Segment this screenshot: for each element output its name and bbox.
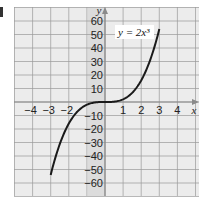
x-tick-label: −4 [24, 104, 37, 116]
y-tick-label: −60 [84, 177, 103, 189]
y-tick-label: −20 [84, 123, 103, 135]
x-tick-label: 3 [156, 104, 162, 116]
y-tick-label: −50 [84, 164, 103, 176]
y-tick-label: 10 [91, 83, 103, 95]
x-axis-label: x [191, 104, 197, 116]
x-tick-label: 4 [174, 104, 180, 116]
y-tick-label: −10 [84, 110, 103, 122]
x-tick-label: −2 [61, 104, 74, 116]
cubic-graph: −4−3−21234xy605040302010−10−20−30−40−50−… [0, 0, 202, 200]
y-tick-label: −30 [84, 137, 103, 149]
equation-label: y = 2x³ [117, 26, 150, 38]
x-tick-label: −3 [42, 104, 55, 116]
x-tick-label: 1 [120, 104, 126, 116]
y-tick-label: 50 [91, 29, 103, 41]
y-tick-label: 60 [91, 15, 103, 27]
x-tick-label: 2 [138, 104, 144, 116]
y-tick-label: −40 [84, 150, 103, 162]
y-tick-label: 20 [91, 69, 103, 81]
y-tick-label: 40 [91, 42, 103, 54]
y-tick-label: 30 [91, 56, 103, 68]
